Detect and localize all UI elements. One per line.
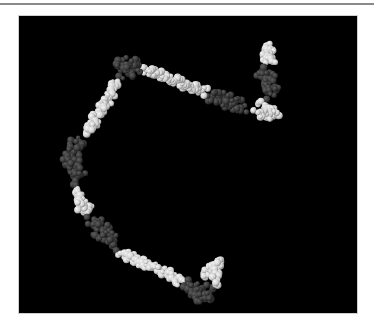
atom-sphere — [88, 126, 95, 133]
atom-sphere — [250, 107, 256, 113]
atom-sphere — [212, 279, 219, 286]
atom-sphere — [104, 230, 108, 234]
atom-sphere — [214, 259, 221, 266]
atom-spheres — [60, 41, 283, 305]
atom-sphere — [272, 86, 277, 91]
atom-sphere — [77, 165, 84, 172]
atom-sphere — [129, 73, 136, 80]
atom-sphere — [206, 295, 212, 301]
atom-sphere — [208, 98, 214, 104]
atom-sphere — [115, 63, 120, 68]
atom-sphere — [74, 206, 81, 213]
molecule-render-frame — [19, 16, 357, 313]
atom-sphere — [195, 287, 200, 292]
atom-sphere — [84, 214, 91, 221]
atom-sphere — [85, 221, 91, 227]
atom-sphere — [147, 69, 151, 73]
atom-sphere — [110, 230, 115, 235]
atom-sphere — [264, 71, 269, 76]
atom-sphere — [211, 90, 217, 96]
atom-sphere — [188, 282, 194, 288]
atom-sphere — [195, 281, 199, 285]
atom-sphere — [268, 92, 273, 97]
atom-sphere — [205, 291, 210, 296]
atom-sphere — [160, 270, 165, 275]
atom-sphere — [260, 64, 268, 72]
atom-sphere — [203, 282, 210, 289]
atom-sphere — [197, 292, 203, 298]
atom-sphere — [95, 221, 102, 228]
atom-sphere — [121, 76, 125, 80]
atom-sphere — [67, 160, 74, 167]
top-rule — [0, 3, 374, 5]
atom-sphere — [74, 199, 80, 205]
atom-sphere — [107, 236, 114, 243]
atom-sphere — [73, 144, 80, 151]
molecule-chain-render — [19, 16, 357, 313]
atom-sphere — [175, 283, 180, 288]
atom-sphere — [77, 171, 82, 176]
atom-sphere — [270, 78, 277, 85]
atom-sphere — [123, 64, 130, 71]
atom-sphere — [73, 139, 79, 145]
atom-sphere — [96, 111, 103, 118]
atom-sphere — [258, 114, 263, 119]
atom-sphere — [155, 265, 161, 271]
atom-sphere — [267, 117, 272, 122]
atom-sphere — [272, 59, 278, 65]
atom-sphere — [244, 109, 250, 115]
atom-sphere — [136, 68, 141, 73]
